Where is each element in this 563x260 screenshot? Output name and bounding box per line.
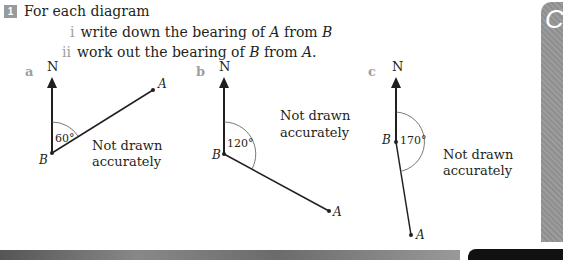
not-drawn-note-2: accurately [280, 125, 349, 140]
point-a-label: A [333, 205, 342, 219]
angle-label: 120° [227, 137, 254, 150]
page-bottom-tab [468, 249, 563, 260]
diagram-c: c N 170° B A Not drawn accurately [360, 55, 540, 260]
not-drawn-note: Not drawn [92, 138, 162, 153]
point-b-label: B [212, 148, 221, 162]
page-side-tab [541, 2, 563, 242]
page-bottom-banner [0, 250, 460, 260]
point-b-label: B [39, 153, 48, 167]
question-intro: For each diagram [24, 3, 150, 19]
diagram-b: b N 120° B A Not drawn accurately [180, 55, 360, 255]
point-a-label: A [158, 77, 167, 91]
point-a-label: A [416, 228, 425, 242]
question-part-i: iwrite down the bearing of A from B [70, 24, 332, 40]
angle-label: 60° [55, 132, 75, 145]
not-drawn-note: Not drawn [280, 108, 350, 123]
part-label: i [70, 24, 74, 40]
diagram-a: a N 60° B A Not drawn accurately [0, 55, 180, 195]
north-label: N [392, 59, 403, 74]
bearing-diagram-a [0, 55, 180, 195]
north-arrow-icon [219, 77, 229, 88]
side-tab-letter: C [545, 4, 563, 35]
bearing-diagram-b [180, 55, 360, 255]
not-drawn-note: Not drawn [443, 147, 513, 162]
north-arrow-icon [391, 77, 401, 88]
not-drawn-note-2: accurately [443, 163, 512, 178]
question-number-badge: 1 [4, 5, 17, 18]
point-b-label: B [382, 133, 391, 147]
north-label: N [219, 59, 230, 74]
north-arrow-icon [47, 77, 57, 88]
not-drawn-note-2: accurately [92, 154, 161, 169]
angle-label: 170° [400, 134, 427, 147]
north-label: N [47, 59, 58, 74]
